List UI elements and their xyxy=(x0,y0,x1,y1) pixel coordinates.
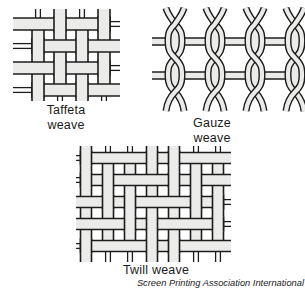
weave-diagrams-canvas xyxy=(0,0,305,295)
weave-types-figure: Taffeta weave Gauze weave Twill weave Sc… xyxy=(0,0,305,295)
gauze-weave-label-line2: weave xyxy=(172,131,252,146)
taffeta-weave-label-line2: weave xyxy=(26,118,106,133)
twill-weave-label: Twill weave xyxy=(106,263,206,278)
taffeta-weave-diagram xyxy=(13,9,120,101)
twill-weave-diagram xyxy=(76,146,231,262)
gauze-weave-diagram xyxy=(152,8,304,111)
taffeta-weave-label-line1: Taffeta xyxy=(26,103,106,118)
gauze-weave-label: Gauze weave xyxy=(172,116,252,145)
credit-caption: Screen Printing Association Internationa… xyxy=(137,278,304,288)
gauze-weave-label-line1: Gauze xyxy=(172,116,252,131)
taffeta-weave-label: Taffeta weave xyxy=(26,103,106,132)
